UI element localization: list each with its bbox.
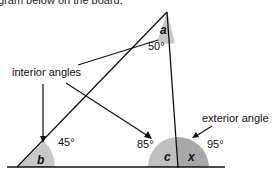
pointer-line-x — [196, 126, 212, 136]
angle-c-value: 85° — [137, 138, 154, 150]
pointer-line-c — [66, 83, 148, 136]
angle-x-value: 95° — [207, 138, 224, 150]
angle-c-letter: c — [164, 150, 171, 164]
angle-b-letter: b — [37, 153, 44, 167]
angle-x-letter: x — [187, 150, 196, 164]
angle-b-value: 45° — [58, 136, 75, 148]
angle-a-value: 50° — [148, 40, 165, 52]
pointer-line-a — [78, 40, 158, 65]
interior-angles-label: interior angles — [12, 66, 82, 78]
angle-a-letter: a — [160, 23, 167, 37]
triangle-diagram: interior angles exterior angle a 50° b 4… — [0, 0, 275, 180]
exterior-angle-label: exterior angle — [202, 112, 269, 124]
